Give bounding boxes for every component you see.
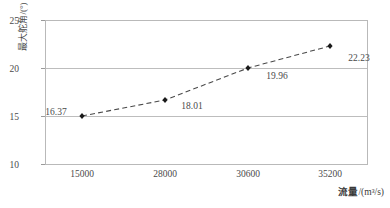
x-axis-tick-label: 35200 bbox=[300, 170, 360, 180]
x-axis-title: 流量/(m³/s) bbox=[338, 184, 384, 198]
x-axis-tick-label: 15000 bbox=[52, 170, 112, 180]
x-axis-tick-label: 28000 bbox=[135, 170, 195, 180]
data-point-label: 19.96 bbox=[247, 72, 307, 82]
x-axis-title-unit: /(m³/s) bbox=[358, 187, 384, 197]
data-point-marker bbox=[245, 65, 250, 71]
data-point-label: 18.01 bbox=[162, 102, 222, 112]
data-point-label: 16.37 bbox=[26, 108, 86, 118]
x-axis-tick-label: 30600 bbox=[218, 170, 278, 180]
data-point-marker bbox=[327, 43, 332, 49]
x-axis-title-name: 流量 bbox=[338, 187, 358, 197]
chart-container: 最大舵角/(°) 25 20 15 10 16.37 18.01 19.96 2… bbox=[0, 0, 390, 208]
data-point-label: 22.23 bbox=[329, 54, 389, 64]
